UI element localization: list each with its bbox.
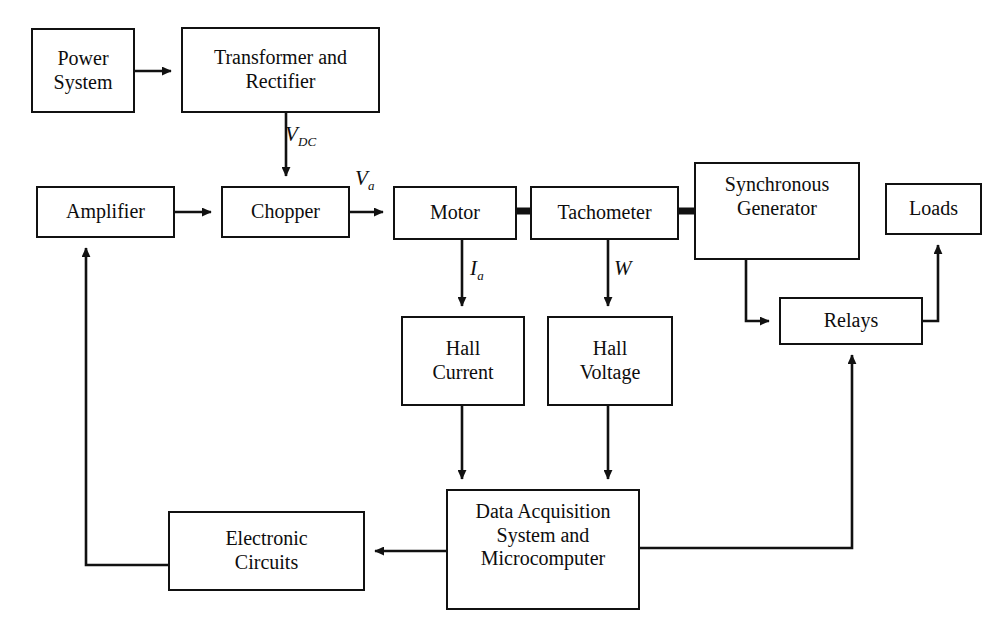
node-hall-current[interactable]: Hall Current bbox=[401, 316, 525, 406]
edge-label-v-dc-sub: DC bbox=[298, 134, 316, 149]
edge-label-i-a: Ia bbox=[470, 258, 484, 279]
connector-electronic-circuits-to-amplifier bbox=[86, 248, 168, 565]
node-synchronous-generator[interactable]: Synchronous Generator bbox=[694, 162, 860, 260]
node-power-system[interactable]: Power System bbox=[31, 28, 135, 113]
node-motor[interactable]: Motor bbox=[393, 186, 517, 240]
node-chopper[interactable]: Chopper bbox=[221, 186, 350, 238]
node-relays[interactable]: Relays bbox=[779, 297, 923, 345]
edge-label-v-a-base: V bbox=[355, 166, 368, 190]
edge-label-i-a-base: I bbox=[470, 256, 477, 280]
connector-relays-to-loads bbox=[923, 245, 938, 321]
node-loads[interactable]: Loads bbox=[885, 183, 982, 235]
node-transformer-rectifier[interactable]: Transformer and Rectifier bbox=[181, 27, 380, 113]
node-electronic-circuits[interactable]: Electronic Circuits bbox=[168, 511, 365, 591]
edge-label-w: W bbox=[614, 258, 632, 279]
node-data-acquisition[interactable]: Data Acquisition System and Microcompute… bbox=[446, 489, 640, 610]
block-diagram: Power System Transformer and Rectifier A… bbox=[0, 0, 1004, 634]
node-amplifier[interactable]: Amplifier bbox=[36, 186, 175, 238]
edge-label-v-a: Va bbox=[355, 168, 374, 189]
edge-label-v-dc-base: V bbox=[285, 122, 298, 146]
edge-label-v-dc: VDC bbox=[285, 124, 316, 145]
edge-label-i-a-sub: a bbox=[477, 268, 484, 283]
node-hall-voltage[interactable]: Hall Voltage bbox=[547, 316, 673, 406]
edge-label-w-base: W bbox=[614, 256, 632, 280]
node-tachometer[interactable]: Tachometer bbox=[530, 186, 679, 240]
edge-label-v-a-sub: a bbox=[368, 178, 375, 193]
connector-generator-to-relays bbox=[746, 260, 769, 321]
